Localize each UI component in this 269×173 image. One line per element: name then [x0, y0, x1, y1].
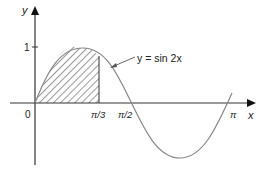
shaded-region [35, 40, 99, 103]
x-tick-label-pi-half: π/2 [118, 109, 133, 120]
y-axis-arrow-icon [31, 6, 39, 15]
origin-label: 0 [25, 109, 31, 120]
y-tick-label-one: 1 [24, 42, 30, 53]
x-tick-label-pi-third: π/3 [91, 109, 106, 120]
x-axis-arrow-icon [247, 99, 256, 107]
function-label-pointer [110, 57, 135, 68]
sine-diagram: y x 1 0 π/3 π/2 π y = sin 2x [0, 0, 269, 173]
x-axis-label: x [247, 109, 254, 121]
y-axis-label: y [21, 4, 29, 16]
function-label: y = sin 2x [137, 52, 182, 64]
x-tick-label-pi: π [230, 109, 237, 120]
